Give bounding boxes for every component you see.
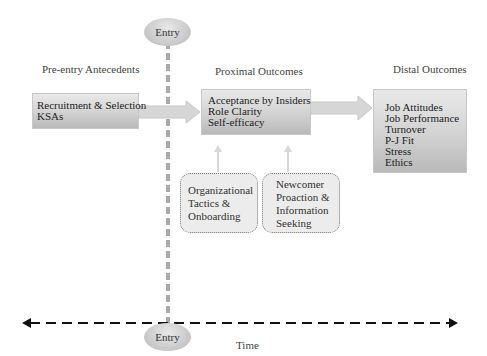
box-pre-entry: Recruitment & Selection KSAs bbox=[32, 93, 139, 129]
entry-oval-bottom: Entry bbox=[144, 323, 191, 351]
org-tactics-line: Tactics & bbox=[188, 197, 257, 210]
header-distal: Distal Outcomes bbox=[393, 63, 467, 75]
org-tactics-line: Onboarding bbox=[188, 210, 257, 223]
arrow-head-newcomer bbox=[284, 145, 292, 152]
entry-oval-top: Entry bbox=[144, 18, 191, 46]
entry-label-top: Entry bbox=[155, 26, 179, 38]
newcomer-line: Newcomer bbox=[276, 178, 339, 191]
time-arrow-right-icon bbox=[449, 318, 458, 328]
arrow-head-org bbox=[214, 145, 222, 152]
arrow-proximal-to-distal bbox=[310, 96, 372, 120]
newcomer-line: Seeking bbox=[276, 217, 339, 230]
time-label: Time bbox=[236, 339, 259, 351]
time-arrow-left-icon bbox=[22, 318, 31, 328]
org-tactics-line: Organizational bbox=[188, 184, 257, 197]
header-proximal: Proximal Outcomes bbox=[215, 65, 303, 77]
box-newcomer-proaction: Newcomer Proaction & Information Seeking bbox=[262, 173, 340, 233]
box-proximal: Acceptance by Insiders Role Clarity Self… bbox=[201, 89, 311, 135]
header-pre-entry: Pre-entry Antecedents bbox=[42, 63, 139, 75]
newcomer-line: Proaction & bbox=[276, 191, 339, 204]
distal-item: Ethics bbox=[385, 157, 466, 168]
entry-label-bottom: Entry bbox=[155, 331, 179, 343]
box-org-tactics: Organizational Tactics & Onboarding bbox=[180, 173, 258, 233]
pre-entry-item: KSAs bbox=[37, 111, 138, 122]
proximal-item: Self-efficacy bbox=[208, 117, 310, 128]
newcomer-line: Information bbox=[276, 204, 339, 217]
box-distal: Job Attitudes Job Performance Turnover P… bbox=[373, 89, 467, 173]
